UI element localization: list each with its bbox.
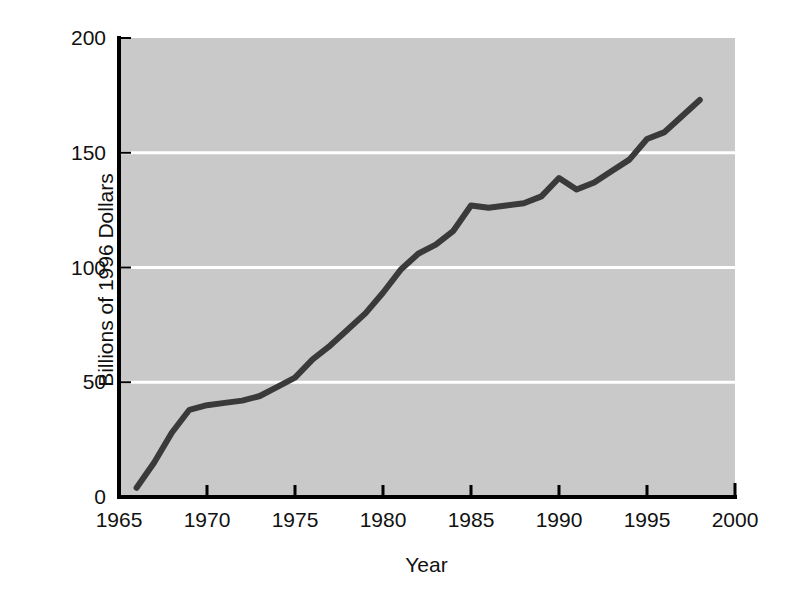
y-axis-title: Billions of 1996 Dollars [94,70,118,490]
x-tick-label-1965: 1965 [96,508,143,532]
x-tick-label-1975: 1975 [272,508,319,532]
y-tick-label-200: 200 [40,26,106,50]
x-tick-label-1980: 1980 [360,508,407,532]
x-tick-label-1995: 1995 [624,508,671,532]
x-tick-label-1990: 1990 [536,508,583,532]
x-tick-label-1970: 1970 [184,508,231,532]
chart-figure: 050100150200 196519701975198019851990199… [0,0,797,604]
x-tick-label-1985: 1985 [448,508,495,532]
x-axis-title: Year [118,553,735,577]
x-tick-label-2000: 2000 [712,508,759,532]
